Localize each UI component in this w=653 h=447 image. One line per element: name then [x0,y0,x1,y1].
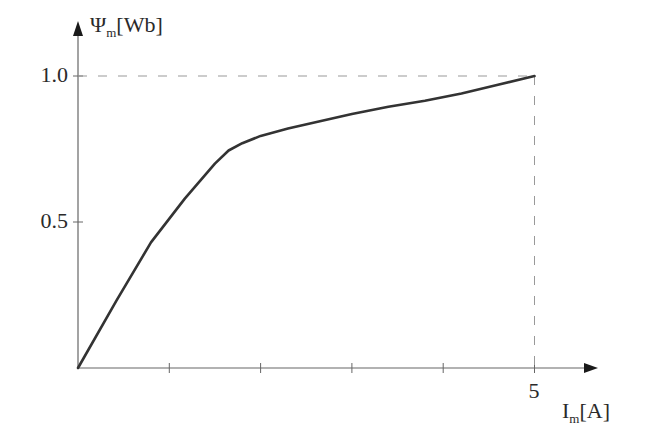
plot-area [0,0,653,447]
x-tick-label: 5 [529,380,540,402]
reference-lines [78,76,535,368]
x-axis-arrow-icon [584,363,598,373]
y-tick-label: 1.0 [41,64,69,86]
x-axis-label: Im[A] [562,400,610,422]
magnetization-curve [78,76,535,368]
y-axis-arrow-icon [73,21,83,36]
y-axis-label: Ψm[Wb] [90,14,163,36]
axis-ticks [73,76,535,373]
y-tick-label: 0.5 [41,210,69,232]
